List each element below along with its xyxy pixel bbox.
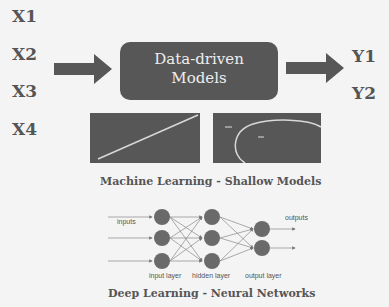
output-y1: Y1	[352, 46, 376, 66]
data-driven-models-box: Data-driven Models	[120, 42, 278, 100]
input-x1: X1	[12, 6, 37, 26]
shallow-models-caption: Machine Learning - Shallow Models	[100, 175, 321, 188]
input-x2: X2	[12, 44, 37, 64]
output-arrow-icon	[286, 53, 346, 83]
input-arrow-icon	[54, 54, 114, 84]
output-layer-label: output layer	[245, 272, 282, 279]
input-layer-label: input layer	[149, 272, 181, 279]
output-y2: Y2	[352, 83, 376, 103]
neural-network-diagram	[100, 195, 320, 275]
deep-learning-caption: Deep Learning - Neural Networks	[108, 287, 315, 300]
nn-outputs-label: outputs	[285, 214, 308, 221]
model-box-line1: Data-driven	[120, 50, 278, 69]
model-box-line2: Models	[120, 69, 278, 88]
input-x4: X4	[12, 119, 37, 139]
hidden-layer-label: hidden layer	[192, 272, 230, 279]
ellipse-classification-plot	[213, 113, 321, 163]
input-x3: X3	[12, 81, 37, 101]
nn-inputs-label: inputs	[117, 218, 136, 225]
linear-regression-plot	[90, 113, 200, 163]
